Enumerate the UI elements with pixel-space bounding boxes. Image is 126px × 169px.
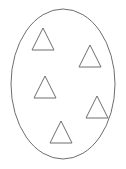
figure-svg [0, 0, 126, 169]
figure-canvas [0, 0, 126, 169]
container-ellipse [11, 9, 115, 159]
